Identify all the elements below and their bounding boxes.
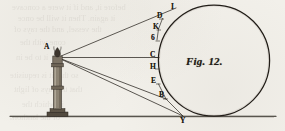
ray-A-to-Y (58, 58, 184, 117)
point-label-D: D (157, 12, 162, 20)
refracted-segments (157, 19, 183, 117)
figure-plate: before it, and if it were a concaveit ag… (0, 0, 285, 131)
flame-tip-right (60, 47, 61, 53)
point-label-G: 6 (151, 34, 155, 42)
figure-caption-tail: . (220, 55, 223, 67)
point-label-Y: Y (180, 117, 185, 125)
limb-tick-marks (155, 19, 169, 99)
figure-caption-text: Fig. 12 (186, 55, 220, 67)
point-label-K: K (153, 23, 159, 31)
lighthouse-tower (47, 46, 68, 116)
flame-tip-left (54, 46, 55, 52)
flame-icon (55, 48, 61, 57)
tower-collar-lower (52, 86, 64, 89)
lantern-housing (53, 56, 62, 64)
point-label-B: B (159, 91, 164, 99)
segment-D-to-K (159, 19, 163, 30)
engraving-artwork (0, 0, 285, 131)
point-label-E: E (151, 77, 156, 85)
segment-B-to-Y (166, 99, 183, 116)
figure-caption: Fig. 12. (186, 55, 223, 67)
point-label-H: H (150, 63, 156, 71)
point-label-A: A (44, 43, 49, 51)
point-label-I: I (171, 3, 174, 11)
ray-bundle (58, 8, 184, 116)
point-label-C: C (150, 51, 155, 59)
